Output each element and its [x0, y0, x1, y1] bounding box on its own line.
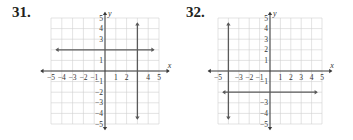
y-axis-label: y	[272, 9, 277, 18]
y-tick-label: 3	[264, 35, 268, 44]
y-tick-label: −4	[260, 109, 268, 118]
line-arrow-up	[226, 22, 230, 25]
x-tick-label: 2	[289, 73, 293, 82]
y-axis-arrow-down	[268, 127, 272, 130]
line-arrow-right	[315, 90, 318, 94]
line-arrow-left	[222, 90, 225, 94]
x-axis-label: x	[329, 61, 334, 70]
x-tick-label: 3	[299, 73, 303, 82]
x-tick-label: −2	[245, 73, 253, 82]
x-tick-label: 5	[320, 73, 324, 82]
y-tick-label: 5	[264, 14, 268, 23]
y-tick-label: −5	[260, 120, 268, 129]
y-tick-label: −3	[260, 98, 268, 107]
x-axis-arrow-left	[208, 69, 211, 73]
x-tick-label: −5	[214, 73, 222, 82]
x-tick-label: 1	[279, 73, 283, 82]
x-tick-label: 4	[310, 73, 314, 82]
y-tick-label: 1	[264, 56, 268, 65]
y-tick-label: 4	[264, 24, 268, 33]
y-tick-label: −1	[260, 77, 268, 86]
y-tick-label: 2	[264, 45, 268, 54]
x-tick-label: −3	[235, 73, 243, 82]
y-axis-arrow-up	[268, 12, 272, 15]
line-arrow-down	[226, 117, 230, 120]
graph-32: xy−5−3−2−11234554321−1−3−4−5	[0, 0, 353, 140]
